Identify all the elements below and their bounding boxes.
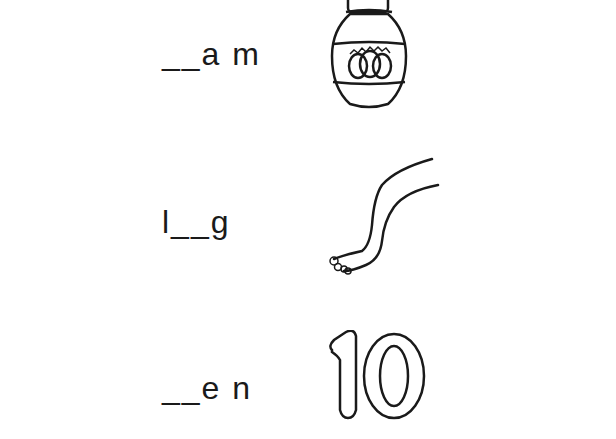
word-prompt: l__g [162, 206, 231, 238]
jar-of-jam-icon [328, 0, 410, 112]
number-ten-icon [328, 330, 428, 420]
worksheet-item-leg: l__g [0, 150, 616, 290]
worksheet-item-jam: __a m [0, 0, 616, 130]
word-prompt: __a m [162, 38, 261, 70]
worksheet-item-ten: __e n [0, 320, 616, 439]
word-prompt: __e n [162, 372, 252, 404]
leg-icon [326, 155, 440, 279]
